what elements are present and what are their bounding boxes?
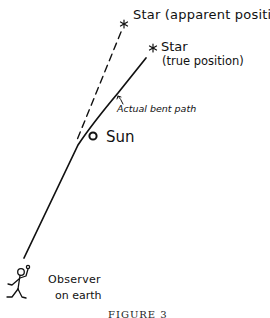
observer-label: Observer [48,274,101,285]
diagram-drawing [0,0,270,318]
light-bending-diagram: Star (apparent position) Star (true posi… [0,0,270,318]
actual-bent-path [24,58,146,258]
apparent-star-label: Star (apparent position) [133,8,270,21]
sun-label: Sun [106,130,135,145]
true-star-sublabel: (true position) [162,56,244,68]
sun-icon [89,132,96,139]
observer-sublabel: on earth [55,290,102,301]
figure-caption: FIGURE 3 [108,309,168,318]
bent-path-label: Actual bent path [117,104,196,114]
apparent-star-icon [121,20,128,28]
apparent-line-of-sight [77,32,121,140]
true-star-icon [150,44,157,52]
observer-stick-figure-icon [7,265,30,298]
true-star-label: Star [161,40,188,53]
